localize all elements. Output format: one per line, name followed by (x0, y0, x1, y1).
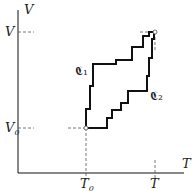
end-point (153, 30, 157, 34)
path-c1 (86, 32, 155, 128)
tick-t: T (150, 176, 160, 191)
guide-lines (18, 32, 155, 180)
diagram-canvas: V T V V0 T0 T 𝕮₁ 𝕮₂ (0, 0, 195, 191)
v-axis-label: V (24, 2, 35, 17)
tick-v: V (5, 24, 16, 39)
label-c2: 𝕮₂ (150, 89, 163, 103)
label-c1: 𝕮₁ (75, 64, 88, 78)
start-point (84, 126, 88, 130)
t-axis-label: T (182, 156, 192, 171)
tick-t0: T0 (80, 176, 94, 191)
tick-v0: V0 (5, 120, 19, 137)
